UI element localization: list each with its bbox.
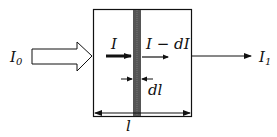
label-transmitted-intensity: I1 <box>258 48 271 67</box>
attenuation-diagram: I0 I I − dI dl l I1 <box>0 0 277 137</box>
label-layer-thickness: dl <box>148 81 163 99</box>
absorbing-slab <box>94 10 192 117</box>
label-slab-length: l <box>126 117 131 135</box>
label-intensity-after-layer: I − dI <box>145 35 191 53</box>
label-incident-intensity: I0 <box>9 48 23 67</box>
label-intensity: I <box>110 35 118 53</box>
incident-beam-arrow <box>32 42 92 71</box>
